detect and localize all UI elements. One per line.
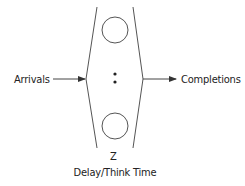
station-left-edge (86, 7, 97, 148)
completions-label: Completions (181, 73, 241, 86)
ellipsis-dots-icon (113, 72, 116, 83)
delay-caption: Delay/Think Time (0, 166, 230, 179)
station-right-edge (133, 7, 143, 148)
delay-center-diagram (0, 0, 245, 186)
delay-station-outline (86, 7, 143, 148)
server-circle-top (102, 17, 128, 43)
delay-symbol-label: Z (110, 150, 117, 163)
server-circle-bottom (102, 113, 128, 139)
arrivals-label: Arrivals (14, 73, 50, 86)
